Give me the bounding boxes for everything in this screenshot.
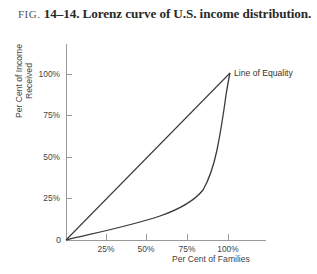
y-tick-label-25: 25% xyxy=(30,193,60,203)
line-of-equality-label: Line of Equality xyxy=(234,68,293,78)
y-tick-label-50: 50% xyxy=(30,152,60,162)
x-axis-label: Per Cent of Families xyxy=(172,254,250,264)
lorenz-chart xyxy=(0,0,317,274)
y-tick-label-75: 75% xyxy=(30,110,60,120)
y-tick-label-100: 100% xyxy=(30,69,60,79)
x-tick-label-100: 100% xyxy=(213,244,243,254)
line-of-equality xyxy=(66,73,230,240)
origin-label: 0 xyxy=(56,235,61,245)
x-ticks xyxy=(107,234,229,240)
x-tick-label-50: 50% xyxy=(131,244,161,254)
x-tick-label-75: 75% xyxy=(172,244,202,254)
x-tick-label-25: 25% xyxy=(91,244,121,254)
